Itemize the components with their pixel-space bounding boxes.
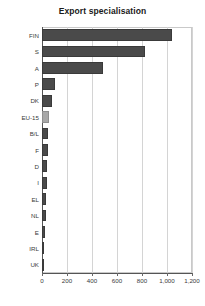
y-tick-label: DK (0, 97, 39, 104)
export-specialisation-chart: Export specialisation FINSAPDKEU-15B/LFD… (0, 0, 205, 306)
plot-area (42, 27, 192, 273)
bar-b-l (42, 128, 48, 140)
y-tick-label: E (0, 229, 39, 236)
bar-f (42, 144, 48, 156)
x-tick (142, 273, 143, 276)
x-tick (167, 273, 168, 276)
y-tick-label: UK (0, 261, 39, 268)
bar-i (42, 177, 47, 189)
y-tick-label: S (0, 48, 39, 55)
y-tick-label: A (0, 65, 39, 72)
bar-d (42, 160, 47, 172)
x-tick (67, 273, 68, 276)
bar-s (42, 46, 145, 58)
y-axis-labels: FINSAPDKEU-15B/LFDIELNLEIRLUK (0, 27, 39, 273)
y-tick-label: EU-15 (0, 114, 39, 121)
chart-title: Export specialisation (0, 6, 205, 16)
y-tick-label: IRL (0, 245, 39, 252)
x-tick (42, 273, 43, 276)
bar-irl (42, 242, 44, 254)
y-tick-label: NL (0, 212, 39, 219)
bar-nl (42, 210, 46, 222)
bar-fin (42, 29, 172, 41)
bar-eu-15 (42, 111, 49, 123)
x-tick (192, 273, 193, 276)
bar-uk (42, 259, 44, 271)
bar-a (42, 62, 103, 74)
y-tick-label: EL (0, 196, 39, 203)
x-tick (92, 273, 93, 276)
bar-e (42, 226, 45, 238)
bars-layer (42, 27, 192, 273)
y-tick-label: P (0, 81, 39, 88)
bar-p (42, 78, 55, 90)
y-tick-label: F (0, 147, 39, 154)
y-tick-label: I (0, 179, 39, 186)
bar-dk (42, 95, 52, 107)
gridline (192, 27, 193, 273)
y-tick-label: D (0, 163, 39, 170)
x-tick (117, 273, 118, 276)
y-tick-label: FIN (0, 32, 39, 39)
bar-el (42, 193, 46, 205)
x-tick-label: 1,200 (177, 277, 205, 285)
y-tick-label: B/L (0, 130, 39, 137)
